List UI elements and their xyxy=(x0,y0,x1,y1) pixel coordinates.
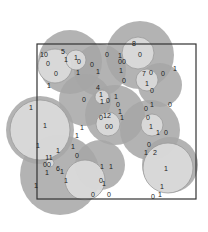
count-label: 0 xyxy=(77,58,81,65)
count-label: 1 xyxy=(80,124,84,131)
count-label: 1 xyxy=(173,65,177,72)
count-label: 1 xyxy=(29,104,33,111)
count-label: 0 xyxy=(149,69,153,76)
count-label: 0 xyxy=(82,96,86,103)
count-label: 8 xyxy=(132,40,136,47)
count-label: 1 xyxy=(34,182,38,189)
count-label: 1 xyxy=(64,56,68,63)
count-label: 1 xyxy=(144,149,148,156)
count-label: 0 xyxy=(90,61,94,68)
count-label: 1 xyxy=(164,165,168,172)
count-label: 1 xyxy=(64,177,68,184)
count-label: 0 xyxy=(147,141,151,148)
count-label: 1 xyxy=(36,142,40,149)
count-label: 0 xyxy=(150,87,154,94)
count-label: 1 xyxy=(43,122,47,129)
count-label: 1 xyxy=(102,180,106,187)
count-label: 1 xyxy=(56,147,60,154)
count-label: 1 xyxy=(96,68,100,75)
count-label: 1 xyxy=(45,169,49,176)
count-label: 0 xyxy=(122,77,126,84)
count-label: 0 xyxy=(91,191,95,198)
count-label: 2 xyxy=(153,149,157,156)
count-label: 0 xyxy=(106,97,110,104)
count-label: 1 xyxy=(100,98,104,105)
count-label: 00 xyxy=(105,123,113,130)
count-label: 1 xyxy=(156,129,160,136)
count-label: 00 xyxy=(118,58,126,65)
count-label: 0 xyxy=(116,101,120,108)
count-label: 0 xyxy=(107,191,111,198)
count-label: 10 xyxy=(40,51,48,58)
count-label: 1 xyxy=(99,91,103,98)
count-label: 0 xyxy=(105,51,109,58)
count-label: 1 xyxy=(109,163,113,170)
count-label: 0 xyxy=(75,152,79,159)
count-label: 1 xyxy=(120,114,124,121)
count-label: 1 xyxy=(150,101,154,108)
count-label: 1 xyxy=(76,69,80,76)
count-label: 1 xyxy=(71,143,75,150)
count-label: 1 xyxy=(119,67,123,74)
count-label: 1 xyxy=(100,163,104,170)
count-label: 5 xyxy=(61,48,65,55)
count-label: 7 xyxy=(142,70,146,77)
count-label: 0 xyxy=(46,60,50,67)
count-label: 0 xyxy=(151,193,155,200)
count-label: 1 xyxy=(114,93,118,100)
count-label: 0 xyxy=(54,70,58,77)
count-label: 0 xyxy=(168,101,172,108)
count-label: 00 xyxy=(43,161,51,168)
count-label: 4 xyxy=(96,84,100,91)
count-label: 1 xyxy=(75,132,79,139)
count-label: 12 xyxy=(103,112,111,119)
count-label: 1 xyxy=(145,80,149,87)
count-label: 0 xyxy=(138,51,142,58)
count-label: 0 xyxy=(161,70,165,77)
count-label: 1 xyxy=(160,183,164,190)
count-label: 0 xyxy=(164,129,168,136)
count-labels: 1050110010118010001000171041100101012001… xyxy=(0,0,208,232)
count-label: 11 xyxy=(45,154,52,161)
count-label: 1 xyxy=(158,191,162,198)
count-label: 1 xyxy=(60,168,64,175)
count-label: 0 xyxy=(144,105,148,112)
count-label: 1 xyxy=(47,82,51,89)
count-label: 0 xyxy=(146,114,150,121)
count-label: 1 xyxy=(149,123,153,130)
